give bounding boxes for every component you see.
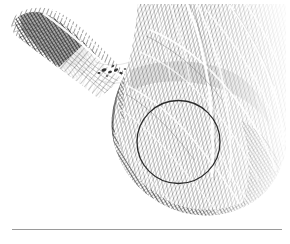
plate-edge-fade: [0, 0, 290, 222]
figure-page: [0, 0, 290, 244]
caption-separator: [12, 229, 282, 230]
engraving-illustration: [0, 0, 290, 244]
figure-stage: [0, 0, 290, 244]
